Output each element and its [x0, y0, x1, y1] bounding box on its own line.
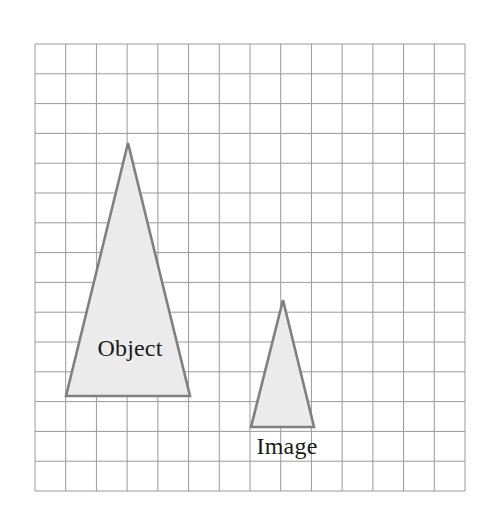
object-label: Object [97, 335, 162, 361]
figure-canvas: Object Image [0, 0, 487, 524]
image-triangle [251, 300, 314, 427]
geometry-figure: Object Image [0, 0, 487, 524]
image-label: Image [257, 433, 318, 459]
